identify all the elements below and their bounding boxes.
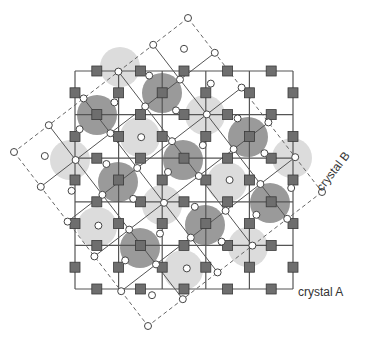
crystal-b-center-circle [146,72,153,79]
crystal-b-node-circle [37,183,44,190]
crystal-b-node-circle [292,154,299,161]
crystal-b-node-circle [64,218,71,225]
crystal-a-atom-square [135,66,145,76]
crystal-b-center-circle [122,257,129,264]
crystal-b-node-circle [161,199,168,206]
light-disc [228,227,268,267]
crystal-b-node-circle [45,122,52,129]
crystal-a-atom-square [266,284,276,294]
crystal-b-node-circle [249,242,256,249]
crystal-a-atom-square [244,219,254,229]
crystal-b-center-circle [183,265,190,272]
crystal-a-atom-square [157,131,167,141]
crystal-a-atom-square [114,88,124,98]
crystal-a-atom-square [157,219,167,229]
crystal-b-node-circle [265,119,272,126]
crystal-a-atom-square [114,262,124,272]
crystal-b-node-circle [72,157,79,164]
crystal-b-center-circle [103,161,110,168]
crystal-a-atom-square [223,66,233,76]
crystal-b-center-circle [199,142,206,149]
crystal-b-node-circle [153,261,160,268]
crystal-b-node-circle [211,49,218,56]
crystal-b-center-circle [149,292,156,299]
crystal-a-atom-square [223,197,233,207]
crystal-b-node-circle [126,226,133,233]
crystal-b-node-circle [195,173,202,180]
crystal-a-atom-square [266,240,276,250]
crystal-b-node-circle [177,76,184,83]
crystal-a-atom-square [288,88,298,98]
crystal-b-center-circle [68,187,75,194]
crystal-b-center-circle [111,99,118,106]
crystal-a-atom-square [92,110,102,120]
crystal-a-atom-square [92,240,102,250]
crystal-a-atom-square [179,66,189,76]
crystal-b-node-circle [179,296,186,303]
crystal-b-node-circle [115,68,122,75]
crystal-b-center-circle [76,126,83,133]
crystal-b-node-circle [91,253,98,260]
crystal-b-center-circle [138,134,145,141]
crystal-b-center-circle [41,153,48,160]
crystal-a-atom-square [92,197,102,207]
crystal-b-node-circle [222,207,229,214]
crystal-a-atom-square [92,66,102,76]
crystal-b-center-circle [157,230,164,237]
crystal-b-center-circle [130,195,137,202]
crystal-a-atom-square [157,88,167,98]
crystal-b-node-circle [203,111,210,118]
crystal-b-node-circle [142,103,149,110]
crystal-a-atom-square [135,153,145,163]
crystal-a-atom-square [70,219,80,229]
crystal-a-atom-square [201,131,211,141]
crystal-a-atom-square [201,219,211,229]
crystal-b-node-circle [118,288,125,295]
crystal-a-label: crystal A [298,285,343,299]
crystal-b-node-circle [214,269,221,276]
crystal-b-node-circle [169,138,176,145]
crystal-b-node-circle [257,181,264,188]
crystal-b-center-circle [191,203,198,210]
crystal-a-atom-square [135,240,145,250]
crystal-b-node-circle [11,149,18,156]
crystal-a-atom-square [92,153,102,163]
crystal-a-atom-square [288,175,298,185]
crystal-a-atom-square [70,88,80,98]
crystal-a-atom-square [223,153,233,163]
crystal-a-atom-square [179,240,189,250]
crystal-a-atom-square [266,110,276,120]
crystal-a-atom-square [157,175,167,185]
crystal-a-atom-square [201,88,211,98]
crystal-b-node-circle [107,130,114,137]
crystal-a-atom-square [244,131,254,141]
crystal-b-node-circle [284,215,291,222]
crystal-a-atom-square [179,153,189,163]
crystal-a-atom-square [179,197,189,207]
crystal-a-atom-square [114,131,124,141]
crystal-a-atom-square [135,110,145,120]
crystal-a-atom-square [244,262,254,272]
crystal-b-center-circle [226,177,233,184]
crystal-b-center-circle [95,222,102,229]
crystal-a-atom-square [179,110,189,120]
crystal-a-atom-square [223,110,233,120]
crystal-b-node-circle [185,15,192,22]
crystal-b-center-circle [253,211,260,218]
crystal-a-atom-square [244,88,254,98]
light-disc [100,47,140,87]
crystal-b-center-circle [181,45,188,52]
bicrystal-lattice-diagram: crystal A crystal B [0,0,366,345]
crystal-a-atom-square [135,284,145,294]
crystal-b-center-circle [218,238,225,245]
crystal-b-center-circle [288,185,295,192]
light-disc [50,140,90,180]
crystal-b-node-circle [99,191,106,198]
crystal-b-center-circle [173,107,180,114]
crystal-b-center-circle [261,150,268,157]
crystal-b-node-circle [150,41,157,48]
crystal-a-atom-square [288,262,298,272]
crystal-b-center-circle [165,169,172,176]
crystal-a-atom-square [179,284,189,294]
crystal-b-node-circle [80,95,87,102]
